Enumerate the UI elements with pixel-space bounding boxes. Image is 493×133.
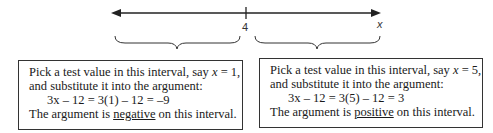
text: on this interval. (155, 107, 236, 121)
left-line1: Pick a test value in this interval, say … (29, 65, 242, 79)
left-line2: and substitute it into the argument: (29, 79, 242, 93)
text: Pick a test value in this interval, say (29, 65, 212, 79)
left-equation: 3x – 12 = 3(1) – 12 = –9 (29, 93, 242, 107)
right-interval-box: Pick a test value in this interval, say … (259, 58, 483, 128)
right-brace (255, 36, 380, 49)
sign-word: negative (113, 107, 155, 121)
axis-label: x (377, 18, 383, 30)
right-line4: The argument is positive on this interva… (270, 105, 482, 119)
text: = 5, (459, 63, 482, 77)
right-line1: Pick a test value in this interval, say … (270, 63, 482, 77)
right-equation: 3x – 12 = 3(5) – 12 = 3 (270, 91, 482, 105)
left-brace (115, 36, 240, 49)
text: on this interval. (394, 105, 475, 119)
text: The argument is (29, 107, 113, 121)
point-label: 4 (242, 21, 248, 33)
right-line2: and substitute it into the argument: (270, 77, 482, 91)
right-arrow-icon (371, 9, 381, 17)
sign-word: positive (354, 105, 394, 119)
text: = 1, (218, 65, 241, 79)
text: The argument is (270, 105, 354, 119)
left-arrow-icon (111, 9, 121, 17)
left-line4: The argument is negative on this interva… (29, 107, 242, 121)
left-interval-box: Pick a test value in this interval, say … (18, 60, 243, 130)
text: Pick a test value in this interval, say (270, 63, 453, 77)
